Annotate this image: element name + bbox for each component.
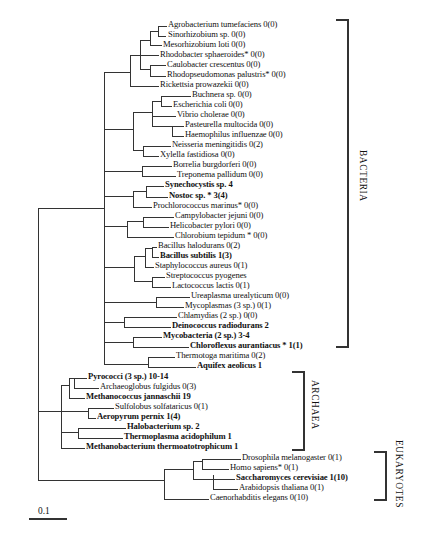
taxon-label-caenorhabditis-elegans: Caenorhabditis elegans 0(10) <box>210 493 308 502</box>
bracket-archaea <box>292 372 304 450</box>
taxon-label-caulobacter-crescentus: Caulobacter crescentus 0(0) <box>167 60 260 69</box>
taxon-label-lactococcus-lactis: Lactococcus lactis 0(1) <box>172 281 249 290</box>
taxon-label-sulfolobus-solfataricus: Sulfolobus solfataricus 0(1) <box>115 402 208 411</box>
taxon-label-prochlorococcus-marinus: Prochlorococcus marinus* 0(0) <box>153 201 258 210</box>
taxon-label-chlamydias: Chlamydias (2 sp.) 0(0) <box>178 311 257 320</box>
taxon-label-thermotoga-maritima: Thermotoga maritima 0(2) <box>176 351 265 360</box>
taxon-label-haemophilus-influenzae: Haemophilus influenzae 0(0) <box>185 130 283 139</box>
taxon-label-deinococcus-radiodurans: Deinococcus radiodurans 2 <box>172 321 269 330</box>
taxon-label-saccharomyces-cerevisiae: Saccharomyces cerevisiae 1(10) <box>236 473 348 482</box>
taxon-label-pasteurella-multocida: Pasteurella multocida 0(0) <box>185 120 273 129</box>
taxon-label-rhodopseudomonas-palustris: Rhodopseudomonas palustris* 0(0) <box>167 70 286 79</box>
taxon-label-rickettsia-prowazekii: Rickettsia prowazekii 0(0) <box>160 80 249 89</box>
taxon-label-borrelia-burgdorferi: Borrelia burgdorferi 0(0) <box>173 160 256 169</box>
group-label-bacteria: BACTERIA <box>358 150 368 202</box>
taxon-label-chlorobium-tepidum: Chlorobium tepidum * 0(0) <box>175 231 267 240</box>
taxon-label-helicobacter-pylori: Helicobacter pylori 0(0) <box>170 221 251 230</box>
scale-bar-label: 0.1 <box>38 506 50 516</box>
taxon-label-archaeoglobus-fulgidus: Archaeoglobus fulgidus 0(3) <box>100 382 196 391</box>
taxon-label-mesorhizobium-loti: Mesorhizobium loti 0(0) <box>163 40 245 49</box>
taxon-label-escherichia-coli: Escherichia coli 0(0) <box>173 100 242 109</box>
taxon-label-streptococcus-pyogenes: Streptococcus pyogenes <box>166 271 247 280</box>
taxon-label-neisseria-meningitidis: Neisseria meningitidis 0(2) <box>172 140 263 149</box>
taxon-label-chloroflexus-aurantiacus: Chloroflexus aurantiacus * 1(1) <box>190 341 303 350</box>
taxon-label-sinorhizobium-sp: Sinorhizobium sp. 0(0) <box>168 30 245 39</box>
taxon-label-drosophila-melanogaster: Drosophila melanogaster 0(1) <box>242 453 342 462</box>
taxon-label-rhodobacter-sphaeroides: Rhodobacter sphaeroides* 0(0) <box>160 50 265 59</box>
taxon-label-methanococcus-jannaschii: Methanococcus jannaschii 19 <box>86 392 191 401</box>
taxon-label-xylella-fastidiosa: Xylella fastidiosa 0(0) <box>160 150 235 159</box>
taxon-label-bacillus-subtilis: Bacillus subtilis 1(3) <box>160 251 232 260</box>
taxon-label-buchnera-sp: Buchnera sp. 0(0) <box>192 90 252 99</box>
taxon-label-mycobacteria: Mycobacteria (2 sp.) 3-4 <box>163 331 249 340</box>
taxon-label-thermoplasma-acidophilum: Thermoplasma acidophilum 1 <box>124 432 232 441</box>
group-label-eukaryotes: EUKARYOTES <box>394 440 404 508</box>
taxon-label-aeropyrum-pernix: Aeropyrum pernix 1(4) <box>97 412 180 421</box>
bracket-bacteria <box>336 20 348 347</box>
taxon-label-pyrococci: Pyrococci (3 sp.) 10-14 <box>88 372 168 381</box>
taxon-label-bacillus-halodurans: Bacillus halodurans 0(2) <box>158 241 240 250</box>
group-label-archaea: ARCHAEA <box>310 380 320 430</box>
taxon-label-synechocystis-sp: Synechocystis sp. 4 <box>165 180 233 189</box>
taxon-label-homo-sapiens: Homo sapiens* 0(1) <box>230 463 298 472</box>
taxon-label-treponema-pallidum: Treponema pallidum 0(0) <box>177 170 263 179</box>
taxon-label-mycoplasmas: Mycoplasmas (3 sp.) 0(1) <box>185 301 271 310</box>
taxon-label-vibrio-cholerae: Vibrio cholerae 0(0) <box>177 110 245 119</box>
taxon-label-campylobacter-jejuni: Campylobacter jejuni 0(0) <box>175 211 263 220</box>
taxon-label-aquifex-aeolicus: Aquifex aeolicus 1 <box>197 361 262 370</box>
bracket-eukaryotes <box>374 452 386 500</box>
taxon-label-staphylococcus-aureus: Staphylococcus aureus 0(1) <box>155 261 247 270</box>
phylogenetic-tree-figure: Agrobacterium tumefaciens 0(0) Sinorhizo… <box>0 0 421 538</box>
taxon-label-agrobacterium-tumefaciens: Agrobacterium tumefaciens 0(0) <box>168 20 277 29</box>
taxon-label-arabidopsis-thaliana: Arabidopsis thaliana 0(1) <box>239 483 324 492</box>
taxon-label-ureaplasma-urealyticum: Ureaplasma urealyticum 0(0) <box>191 291 289 300</box>
taxon-label-nostoc-sp: Nostoc sp. * 3(4) <box>169 191 227 200</box>
taxon-label-methanobacterium-thermoatotrophicum: Methanobacterium thermoatotrophicum 1 <box>86 442 238 451</box>
taxon-label-halobacterium-sp: Halobacterium sp. 2 <box>127 422 199 431</box>
